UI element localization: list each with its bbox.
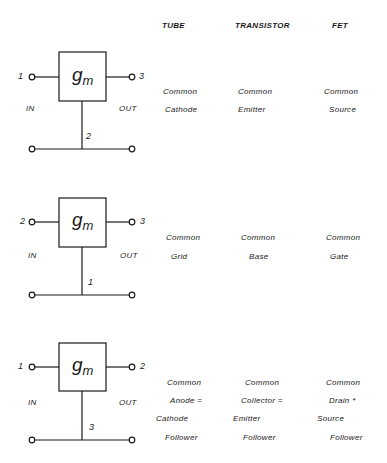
tube-config-3-line-3: Cathode	[156, 414, 188, 423]
fet-config-3-line-3: Source	[317, 414, 344, 423]
tube-config-1-line-2: Cathode	[165, 105, 197, 114]
transistor-config-3-line-2: Collector =	[241, 396, 283, 405]
transistor-config-3-line-1: Common	[245, 378, 279, 387]
header-tube: TUBE	[162, 21, 185, 30]
fet-config-2-line-1: Common	[326, 233, 360, 242]
terminal-out-number-2: 3	[140, 216, 145, 226]
fet-config-1-line-1: Common	[324, 87, 358, 96]
terminal-common-number-2: 1	[88, 277, 93, 287]
fet-config-3-line-4: Follower	[330, 433, 363, 442]
fet-config-3-line-1: Common	[326, 378, 360, 387]
terminal-in-number-2: 2	[20, 216, 25, 226]
schematic-lines	[0, 0, 387, 463]
out-label-3: OUT	[119, 398, 137, 407]
transistor-config-3-line-3: Emitter	[233, 414, 260, 423]
terminal-in-number-3: 1	[18, 361, 23, 371]
header-transistor: TRANSISTOR	[235, 21, 290, 30]
transistor-config-2-line-2: Base	[249, 252, 268, 261]
header-fet: FET	[332, 21, 348, 30]
transistor-config-2-line-1: Common	[241, 233, 275, 242]
in-label-3: IN	[28, 398, 37, 407]
terminal-out-number-1: 3	[139, 71, 144, 81]
in-label-1: IN	[26, 104, 35, 113]
fet-config-3-line-2: Drain *	[329, 396, 356, 405]
terminal-out-number-3: 2	[140, 361, 145, 371]
tube-config-1-line-1: Common	[163, 87, 197, 96]
gm-symbol-3: gm	[72, 354, 93, 378]
tube-config-2-line-2: Grid	[171, 252, 187, 261]
fet-config-2-line-2: Gate	[330, 252, 349, 261]
transistor-config-1-line-1: Common	[238, 87, 272, 96]
in-label-2: IN	[28, 251, 37, 260]
terminal-common-number-1: 2	[86, 131, 91, 141]
tube-config-3-line-2: Anode =	[170, 396, 202, 405]
tube-config-2-line-1: Common	[166, 233, 200, 242]
tube-config-3-line-4: Follower	[165, 433, 198, 442]
fet-config-1-line-2: Source	[329, 105, 356, 114]
tube-config-3-line-1: Common	[167, 378, 201, 387]
terminal-in-number-1: 1	[18, 71, 23, 81]
out-label-2: OUT	[120, 251, 138, 260]
out-label-1: OUT	[119, 104, 137, 113]
gm-symbol-1: gm	[72, 64, 93, 88]
transistor-config-3-line-4: Follower	[243, 433, 276, 442]
transistor-config-1-line-2: Emitter	[238, 105, 265, 114]
terminal-common-number-3: 3	[89, 422, 94, 432]
gm-symbol-2: gm	[72, 209, 93, 233]
